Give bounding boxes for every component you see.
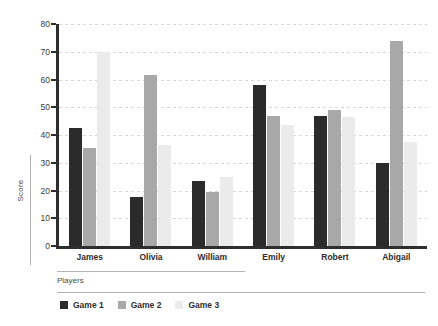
bar[interactable] xyxy=(220,177,233,246)
x-axis-title-rule xyxy=(57,271,245,272)
bar[interactable] xyxy=(281,125,294,246)
x-tick-label: Abigail xyxy=(366,252,427,262)
bar[interactable] xyxy=(192,181,205,246)
y-tick-label: 70 xyxy=(30,48,50,57)
bar[interactable] xyxy=(404,142,417,246)
bar[interactable] xyxy=(376,163,389,246)
chart-legend: Game 1Game 2Game 3 xyxy=(60,300,219,310)
y-tick-label: 30 xyxy=(30,159,50,168)
x-tick-label: Emily xyxy=(243,252,304,262)
bar[interactable] xyxy=(206,192,219,246)
legend-item[interactable]: Game 1 xyxy=(60,300,104,310)
x-axis-title: Players xyxy=(57,276,84,285)
bar-group xyxy=(304,24,365,246)
bar[interactable] xyxy=(253,85,266,246)
bar[interactable] xyxy=(267,116,280,246)
legend-label: Game 2 xyxy=(131,300,162,310)
legend-swatch-icon xyxy=(118,301,126,309)
y-tick-label: 80 xyxy=(30,20,50,29)
y-tick-label: 0 xyxy=(30,242,50,251)
bar[interactable] xyxy=(342,117,355,246)
x-axis-line xyxy=(56,246,427,249)
bar[interactable] xyxy=(328,110,341,246)
y-tick-label: 50 xyxy=(30,103,50,112)
legend-item[interactable]: Game 3 xyxy=(175,300,219,310)
plot-area xyxy=(59,24,427,246)
legend-label: Game 3 xyxy=(188,300,219,310)
bar[interactable] xyxy=(390,41,403,246)
bar-chart: Score 01020304050607080 JamesOliviaWilli… xyxy=(0,0,438,326)
bar[interactable] xyxy=(83,148,96,247)
bars-layer xyxy=(59,24,427,246)
legend-item[interactable]: Game 2 xyxy=(118,300,162,310)
y-tick-label: 60 xyxy=(30,76,50,85)
x-axis-tick-labels: JamesOliviaWilliamEmilyRobertAbigail xyxy=(59,252,427,262)
bar-group xyxy=(182,24,243,246)
bar[interactable] xyxy=(314,116,327,246)
bar[interactable] xyxy=(144,75,157,246)
x-tick-label: William xyxy=(182,252,243,262)
bar[interactable] xyxy=(97,52,110,246)
x-tick-label: Robert xyxy=(304,252,365,262)
x-tick-label: Olivia xyxy=(120,252,181,262)
bar[interactable] xyxy=(158,145,171,246)
bar-group xyxy=(59,24,120,246)
legend-label: Game 1 xyxy=(73,300,104,310)
legend-separator xyxy=(57,292,425,293)
legend-swatch-icon xyxy=(175,301,183,309)
bar-group xyxy=(243,24,304,246)
y-axis-ticks: 01020304050607080 xyxy=(0,0,50,326)
y-tick-label: 20 xyxy=(30,187,50,196)
y-tick-label: 10 xyxy=(30,214,50,223)
bar[interactable] xyxy=(69,128,82,246)
bar-group xyxy=(366,24,427,246)
bar-group xyxy=(120,24,181,246)
legend-swatch-icon xyxy=(60,301,68,309)
bar[interactable] xyxy=(130,197,143,246)
y-tick-label: 40 xyxy=(30,131,50,140)
x-tick-label: James xyxy=(59,252,120,262)
